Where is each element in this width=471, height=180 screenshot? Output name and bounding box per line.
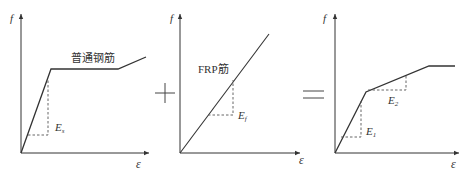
hybrid-modulus2-label: E2 [387, 94, 399, 108]
y-axis-label: f [10, 12, 15, 24]
hybrid-modulus1-label: E1 [365, 125, 376, 139]
plus-operator [155, 83, 175, 103]
panel-hybrid: f ε E1 E2 [323, 12, 459, 171]
y-axis-label: f [323, 12, 328, 24]
frp-curve [180, 34, 269, 153]
steel-modulus-label: Es [54, 121, 65, 135]
x-axis-label: ε [451, 157, 456, 171]
frp-curve-label: FRP筋 [198, 62, 229, 75]
steel-curve [21, 57, 146, 153]
equals-operator [303, 91, 324, 98]
stress-strain-diagram: f ε 普通钢筋 Es f ε FRP筋 Ef [0, 0, 471, 180]
steel-curve-label: 普通钢筋 [71, 51, 115, 64]
panel-steel: f ε 普通钢筋 Es [10, 12, 149, 171]
diagram-canvas: f ε 普通钢筋 Es f ε FRP筋 Ef [0, 0, 471, 180]
x-axis-label: ε [299, 153, 304, 167]
x-axis-label: ε [136, 157, 141, 171]
hybrid-curve [335, 66, 455, 153]
y-axis-label: f [170, 12, 175, 24]
panel-frp: f ε FRP筋 Ef [170, 12, 304, 167]
frp-modulus-label: Ef [237, 109, 248, 123]
